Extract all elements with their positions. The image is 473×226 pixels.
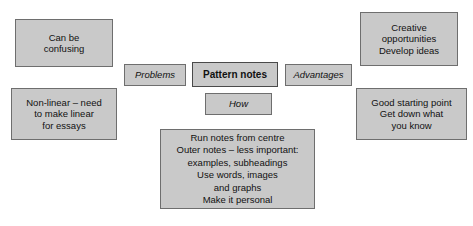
node-how: How xyxy=(205,93,272,115)
pattern-notes-diagram: Can be confusing Non-linear – need to ma… xyxy=(0,0,473,226)
node-good-starting-point: Good starting point Get down what you kn… xyxy=(356,88,467,140)
node-problems: Problems xyxy=(124,64,186,86)
node-non-linear: Non-linear – need to make linear for ess… xyxy=(11,88,117,140)
node-pattern-notes: Pattern notes xyxy=(192,62,278,87)
node-can-be-confusing: Can be confusing xyxy=(15,19,113,67)
node-creative-opportunities: Creative opportunities Develop ideas xyxy=(360,12,458,66)
node-advantages: Advantages xyxy=(285,64,352,86)
node-pattern-notes-detail: Run notes from centre Outer notes – less… xyxy=(160,129,315,209)
